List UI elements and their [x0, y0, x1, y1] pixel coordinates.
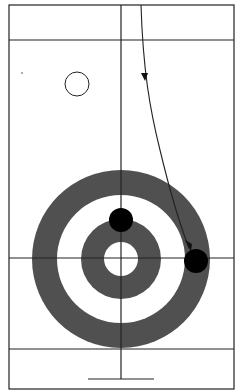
- stone-icon: [184, 249, 208, 273]
- curling-diagram: [0, 0, 235, 391]
- dot-marker: [21, 72, 23, 74]
- stone-icon: [109, 208, 133, 232]
